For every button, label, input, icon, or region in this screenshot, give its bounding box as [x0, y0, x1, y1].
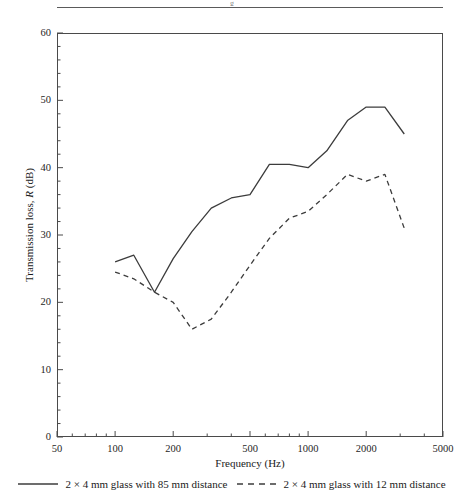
y-axis-title-post: (dB) [23, 168, 35, 191]
x-axis-major-ticks [57, 431, 443, 437]
running-head-clipped: g [0, 0, 464, 6]
y-axis-title-pre: Transmission loss, [23, 198, 35, 282]
x-tick-label: 100 [85, 444, 145, 455]
chart-legend: 2 × 4 mm glass with 85 mm distance2 × 4 … [0, 478, 464, 490]
x-tick-label: 50 [27, 444, 87, 455]
y-tick-label: 0 [11, 432, 51, 443]
x-tick-label: 500 [220, 444, 280, 455]
x-axis-minor-ticks [72, 434, 424, 438]
legend-label: 2 × 4 mm glass with 85 mm distance [65, 478, 227, 490]
legend-entry-1[interactable]: 2 × 4 mm glass with 85 mm distance [18, 478, 227, 490]
series-line-1 [115, 107, 404, 292]
legend-dashed-line-icon [237, 481, 277, 487]
header-rule [57, 7, 443, 8]
x-tick-label: 2000 [336, 444, 396, 455]
legend-entry-2[interactable]: 2 × 4 mm glass with 12 mm distance [237, 478, 446, 490]
x-axis-title: Frequency (Hz) [57, 457, 443, 469]
legend-label: 2 × 4 mm glass with 12 mm distance [284, 478, 446, 490]
x-tick-label: 1000 [278, 444, 338, 455]
y-tick-label: 50 [11, 95, 51, 106]
legend-solid-line-icon [18, 481, 58, 487]
series-line-2 [115, 174, 404, 329]
chart-page: g 0102030405060 50100200500100020005000 … [0, 0, 464, 502]
x-tick-label: 200 [143, 444, 203, 455]
data-series-group [115, 107, 404, 329]
x-tick-label: 5000 [413, 444, 464, 455]
plot-canvas [57, 33, 443, 437]
y-axis-title-symbol: R [23, 191, 35, 198]
y-tick-label: 10 [11, 365, 51, 376]
y-tick-label: 60 [11, 28, 51, 39]
y-axis-major-ticks [57, 33, 63, 437]
y-axis-title: Transmission loss, R (dB) [23, 145, 35, 305]
